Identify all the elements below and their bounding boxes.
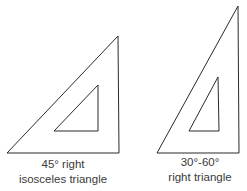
thirty-sixty-caption-line1: 30°-60° bbox=[146, 155, 247, 170]
isosceles-caption-line2: isosceles triangle bbox=[3, 172, 123, 187]
isosceles-triangle-caption: 45° right isosceles triangle bbox=[3, 157, 123, 187]
thirty-sixty-caption-line2: right triangle bbox=[146, 170, 247, 185]
isosceles-inner-cutout bbox=[54, 85, 98, 131]
thirty-sixty-set-square bbox=[157, 6, 239, 153]
isosceles-outer-triangle bbox=[7, 36, 119, 153]
isosceles-set-square bbox=[7, 36, 119, 153]
isosceles-caption-line1: 45° right bbox=[3, 157, 123, 172]
thirty-sixty-triangle-caption: 30°-60° right triangle bbox=[146, 155, 247, 185]
thirty-sixty-inner-cutout bbox=[189, 77, 219, 131]
